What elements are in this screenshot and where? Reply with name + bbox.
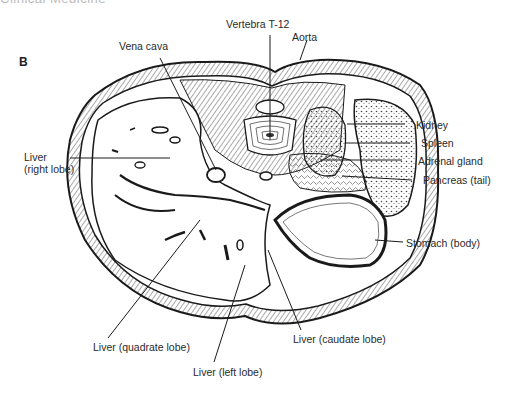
label-kidney: Kidney bbox=[416, 119, 448, 131]
label-liver-right-lobe-line2: (right lobe) bbox=[24, 163, 74, 175]
label-liver-caudate-lobe: Liver (caudate lobe) bbox=[293, 333, 386, 345]
label-vertebra-t12: Vertebra T-12 bbox=[226, 18, 289, 30]
label-aorta: Aorta bbox=[292, 31, 317, 43]
label-liver-right-lobe-line1: Liver bbox=[24, 151, 47, 163]
label-liver-left-lobe: Liver (left lobe) bbox=[193, 366, 262, 378]
label-stomach-body: Stomach (body) bbox=[406, 237, 480, 249]
label-pancreas-tail: Pancreas (tail) bbox=[423, 174, 491, 186]
label-spleen: Spleen bbox=[421, 137, 454, 149]
label-adrenal-gland: Adrenal gland bbox=[418, 155, 483, 167]
aorta bbox=[260, 172, 272, 180]
label-liver-quadrate-lobe: Liver (quadrate lobe) bbox=[93, 341, 190, 353]
anatomy-cross-section bbox=[0, 0, 516, 401]
label-vena-cava: Vena cava bbox=[119, 40, 168, 52]
vena-cava bbox=[207, 168, 225, 182]
